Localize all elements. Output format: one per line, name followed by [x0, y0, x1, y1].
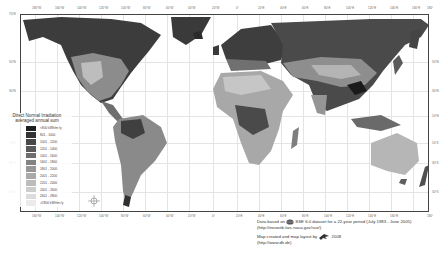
- legend-item: >2800 kWh/m²/y: [26, 200, 72, 207]
- lon-tick: 60°W: [143, 214, 150, 218]
- world-map[interactable]: [20, 14, 429, 212]
- legend: Direct Normal Irradiation averaged annua…: [2, 113, 72, 207]
- legend-swatch: [26, 153, 36, 159]
- lon-tick: 80°E: [324, 6, 331, 10]
- lon-tick: 160°E: [390, 214, 398, 218]
- dlr-logo-icon: [318, 233, 330, 240]
- legend-label: 1801 - 2000: [40, 167, 57, 171]
- legend-item: 2001 - 2200: [26, 173, 72, 180]
- legend-label: 1601 - 1800: [40, 160, 57, 164]
- legend-swatch: [26, 132, 36, 138]
- legend-swatch: [26, 166, 36, 172]
- lon-tick: 180°: [427, 214, 433, 218]
- legend-label: 1401 - 1600: [40, 154, 57, 158]
- legend-label: 2401 - 2600: [40, 188, 57, 192]
- legend-swatch: [26, 194, 36, 200]
- lon-tick: 180°: [427, 6, 433, 10]
- data-source-url[interactable]: (http://eosweb.larc.nasa.gov/sse/): [257, 225, 411, 230]
- lon-tick: 160°W: [32, 214, 41, 218]
- legend-label: 1001 - 1200: [40, 140, 57, 144]
- map-author-prefix: Map created and map layout by: [257, 234, 317, 239]
- lat-tick: 30°N: [9, 89, 16, 93]
- lat-tick: 30°N: [432, 89, 439, 93]
- lon-tick: 20°E: [258, 6, 265, 10]
- lon-tick: 140°W: [55, 214, 64, 218]
- legend-label: 801 - 1000: [40, 133, 55, 137]
- legend-swatch: [26, 146, 36, 152]
- lon-tick: 120°W: [99, 6, 108, 10]
- lon-tick: 120°E: [368, 6, 376, 10]
- lon-tick: 160°W: [55, 6, 64, 10]
- lon-tick: 180°W: [32, 6, 41, 10]
- lon-tick: 20°W: [212, 6, 219, 10]
- legend-label: 1201 - 1400: [40, 147, 57, 151]
- lat-tick: 70°N: [9, 12, 16, 16]
- lon-tick: 120°W: [77, 214, 86, 218]
- legend-item: 1401 - 1600: [26, 152, 72, 159]
- legend-swatch: [26, 187, 36, 193]
- legend-label: 2001 - 2200: [40, 174, 57, 178]
- lat-tick: 10°N: [432, 114, 439, 118]
- legend-item: 1001 - 1200: [26, 139, 72, 146]
- legend-item: 1201 - 1400: [26, 145, 72, 152]
- legend-swatch: [26, 180, 36, 186]
- legend-item: 2401 - 2600: [26, 186, 72, 193]
- lon-tick: 140°W: [77, 6, 86, 10]
- lon-tick: 40°E: [258, 214, 265, 218]
- lon-tick: 80°W: [143, 6, 150, 10]
- legend-swatch: [26, 126, 36, 132]
- lat-tick: 10°S: [432, 141, 439, 145]
- legend-swatch: [26, 139, 36, 145]
- legend-item: 2201 - 2400: [26, 179, 72, 186]
- legend-item: 1801 - 2000: [26, 166, 72, 173]
- map-author-url[interactable]: (http://www.dlr.de): [257, 240, 411, 245]
- lon-tick: 40°E: [280, 6, 287, 10]
- legend-label: 2601 - 2800: [40, 194, 57, 198]
- legend-title-line2: averaged annual sum: [2, 118, 72, 123]
- lon-tick: 20°E: [236, 214, 243, 218]
- lon-tick: 140°E: [390, 6, 398, 10]
- lon-tick: 40°W: [166, 214, 173, 218]
- legend-item: 2601 - 2800: [26, 193, 72, 200]
- legend-item: 801 - 1000: [26, 132, 72, 139]
- legend-swatch: [26, 173, 36, 179]
- compass-rose-icon: [88, 195, 100, 207]
- legend-label: 2201 - 2400: [40, 181, 57, 185]
- data-source-prefix: Data based on: [257, 219, 285, 224]
- data-source-suffix: SSE 6.0 dataset for a 22-year period (Ju…: [295, 219, 411, 224]
- lon-tick: 100°E: [324, 214, 332, 218]
- land-masses: [21, 15, 429, 212]
- lon-tick: 0°: [212, 214, 215, 218]
- lon-tick: 20°W: [188, 214, 195, 218]
- legend-swatch: [26, 200, 36, 206]
- lon-tick: 160°E: [412, 6, 420, 10]
- map-year: 2008: [332, 234, 342, 239]
- lon-tick: 100°W: [121, 6, 130, 10]
- lat-tick: 50°N: [432, 60, 439, 64]
- lat-tick: 50°S: [432, 190, 439, 194]
- legend-swatch: [26, 160, 36, 166]
- lon-tick: 40°W: [188, 6, 195, 10]
- lat-tick: 50°N: [9, 60, 16, 64]
- lon-tick: 100°W: [99, 214, 108, 218]
- map-author-line: Map created and map layout by 2008: [257, 233, 411, 240]
- lat-tick: 30°S: [432, 161, 439, 165]
- lon-tick: 60°E: [302, 6, 309, 10]
- legend-item: <800 kWh/m²/y: [26, 125, 72, 132]
- credits: Data based on SSE 6.0 dataset for a 22-y…: [257, 219, 411, 245]
- lon-tick: 80°E: [302, 214, 309, 218]
- lon-tick: 120°E: [346, 214, 354, 218]
- legend-label: <800 kWh/m²/y: [40, 126, 62, 130]
- lon-tick: 100°E: [346, 6, 354, 10]
- legend-label: >2800 kWh/m²/y: [40, 201, 63, 205]
- lon-tick: 60°W: [166, 6, 173, 10]
- legend-item: 1601 - 1800: [26, 159, 72, 166]
- lon-tick: 60°E: [280, 214, 287, 218]
- lon-tick: 140°E: [368, 214, 376, 218]
- lon-tick: 0°: [236, 6, 239, 10]
- lon-tick: 80°W: [121, 214, 128, 218]
